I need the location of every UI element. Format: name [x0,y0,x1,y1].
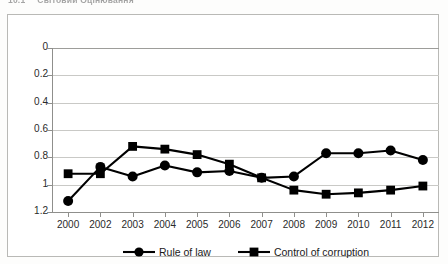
x-axis-tick [423,212,424,217]
x-axis-tick [326,212,327,217]
y-axis-tick-label: 0.4 [14,97,48,107]
circle-marker-icon [192,167,202,177]
y-axis-tick [47,103,52,104]
chart-page: 10.1Світовий Оцінювання 00.20.40.60.811.… [0,0,448,264]
y-axis-labels: 00.20.40.60.811.2 [8,15,48,245]
y-axis-tick-label: 0.8 [14,151,48,161]
x-axis-tick-label: 2012 [403,219,443,231]
circle-marker-icon [386,146,396,156]
square-marker-icon [418,182,427,191]
square-marker-icon [289,186,298,195]
circle-marker-icon [353,148,363,158]
x-axis-tick [133,212,134,217]
chart-frame: 00.20.40.60.811.2 2000200220032004200520… [7,14,439,257]
series-line [68,151,423,202]
square-marker-icon [386,186,395,195]
circle-marker-icon [122,246,156,258]
legend-item-label: Rule of law [159,246,211,258]
y-axis-tick-label: 0.6 [14,124,48,134]
square-marker-icon [322,190,331,199]
x-axis-tick [100,212,101,217]
y-axis-tick-label: 0 [14,42,48,52]
circle-marker-icon [321,148,331,158]
x-axis-tick [358,212,359,217]
y-axis-tick [47,212,52,213]
x-axis-tick [262,212,263,217]
square-marker-icon [225,160,234,169]
y-axis-tick-label: 0.2 [14,69,48,79]
legend-item[interactable]: Rule of law [122,246,211,258]
y-axis-tick [47,157,52,158]
legend-item[interactable]: Control of corruption [237,246,369,258]
circle-marker-icon [160,161,170,171]
square-marker-icon [160,145,169,154]
x-axis-tick [165,212,166,217]
figure-caption-text: Світовий Оцінювання [37,0,133,5]
square-marker-icon [237,246,271,258]
x-axis-tick [229,212,230,217]
square-marker-icon [96,169,105,178]
y-axis-tick [47,185,52,186]
square-marker-icon [354,188,363,197]
square-marker-icon [64,169,73,178]
y-axis-tick-label: 1.2 [14,206,48,216]
x-axis-tick [197,212,198,217]
figure-caption-number: 10.1 [8,0,25,5]
x-axis-tick [294,212,295,217]
square-marker-icon [193,150,202,159]
square-marker-icon [128,142,137,151]
square-marker-icon [257,173,266,182]
y-axis-tick [47,75,52,76]
x-axis-tick [68,212,69,217]
legend-item-label: Control of corruption [274,246,369,258]
x-axis-labels: 2000200220032004200520062007200820092010… [52,219,439,233]
x-axis-line [52,212,439,213]
series-layer [52,48,439,212]
circle-marker-icon [63,196,73,206]
x-axis-tick [391,212,392,217]
y-axis-tick [47,130,52,131]
series-rule-of-law [63,146,428,207]
circle-marker-icon [418,155,428,165]
circle-marker-icon [128,171,138,181]
figure-caption: 10.1Світовий Оцінювання [8,0,308,7]
series-control-of-corruption [64,142,428,199]
circle-marker-icon [289,171,299,181]
y-axis-tick [47,48,52,49]
y-axis-tick-label: 1 [14,179,48,189]
series-line [68,146,423,194]
chart-legend: Rule of lawControl of corruption [52,243,439,261]
